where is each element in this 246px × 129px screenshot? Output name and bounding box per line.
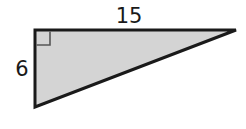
right-triangle <box>35 30 236 107</box>
top-side-label: 15 <box>116 4 143 28</box>
triangle-diagram: 15 6 <box>0 0 246 129</box>
left-side-label: 6 <box>15 57 28 81</box>
